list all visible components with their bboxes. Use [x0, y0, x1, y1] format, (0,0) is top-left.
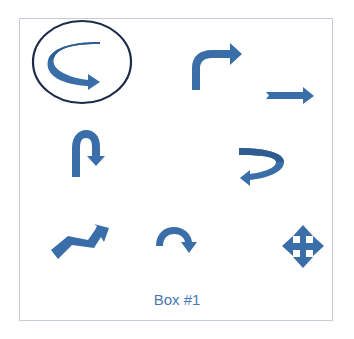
- box-caption: Box #1: [0, 291, 354, 308]
- arrow-art: [0, 0, 354, 339]
- circular-clockwise-arrow-icon[interactable]: [156, 227, 197, 253]
- four-way-move-arrow-icon[interactable]: [282, 225, 324, 268]
- curved-u-right-arrow-icon[interactable]: [47, 42, 100, 90]
- bent-up-right-arrow-icon[interactable]: [192, 43, 242, 90]
- curved-u-left-arrow-icon[interactable]: [239, 148, 284, 186]
- notched-right-arrow-icon[interactable]: [266, 87, 314, 104]
- zigzag-up-right-arrow-icon[interactable]: [51, 224, 109, 259]
- u-turn-down-arrow-icon[interactable]: [72, 130, 105, 177]
